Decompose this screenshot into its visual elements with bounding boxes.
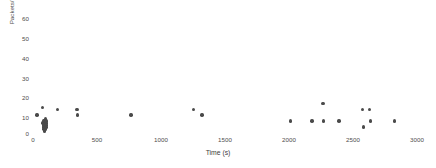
y-tick-label: 10 <box>22 115 29 121</box>
data-point <box>362 125 365 128</box>
data-point <box>56 108 59 111</box>
data-point <box>322 119 325 122</box>
data-point <box>192 108 195 111</box>
data-point <box>41 106 44 109</box>
x-tick-label: 2000 <box>282 137 296 143</box>
data-point <box>393 119 396 122</box>
x-tick-label: 3000 <box>410 137 424 143</box>
y-tick-label: 60 <box>22 16 29 22</box>
data-point <box>129 113 132 116</box>
x-tick-label: 1500 <box>218 137 232 143</box>
data-point <box>35 113 38 116</box>
x-tick-label: 1000 <box>154 137 168 143</box>
data-point <box>321 102 324 105</box>
x-tick-label: 0 <box>31 137 34 143</box>
data-point <box>310 119 313 122</box>
data-point <box>289 119 292 122</box>
data-point <box>361 108 364 111</box>
data-point <box>75 108 78 111</box>
x-axis: 0 500 1000 1500 2000 2500 3000 Time (s) <box>0 133 436 168</box>
y-axis-title: Packets/1 sec <box>9 0 15 36</box>
data-point <box>369 119 372 122</box>
x-tick-label: 2500 <box>346 137 360 143</box>
x-axis-title: Time (s) <box>0 150 436 157</box>
data-point <box>337 119 340 122</box>
y-tick-label: 50 <box>22 36 29 42</box>
data-point <box>368 108 371 111</box>
data-point <box>76 113 79 116</box>
x-tick-label: 500 <box>92 137 102 143</box>
y-tick-label: 30 <box>22 76 29 82</box>
plot-area <box>33 14 417 133</box>
y-tick-label: 20 <box>22 95 29 101</box>
data-point <box>45 125 48 128</box>
scatter-chart: Packets/1 sec 60 50 40 30 20 10 0 0 500 … <box>0 0 436 168</box>
y-tick-label: 40 <box>22 56 29 62</box>
data-point <box>200 113 203 116</box>
data-point <box>44 119 47 122</box>
